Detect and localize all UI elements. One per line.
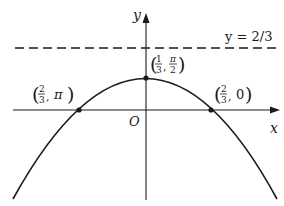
svg-text:): ) bbox=[245, 83, 252, 105]
right-intercept-label: ( 2 3 , 0 ) bbox=[214, 83, 252, 105]
vertex-point bbox=[143, 75, 148, 80]
svg-text:2: 2 bbox=[221, 84, 227, 94]
y-axis-label: y bbox=[132, 7, 142, 23]
left-intercept-label: ( 2 3 , π ) bbox=[32, 83, 74, 105]
svg-text:2: 2 bbox=[39, 84, 45, 94]
svg-text:0: 0 bbox=[236, 87, 244, 102]
parabola-diagram: y x O y = 2/3 ( 1 3 , π 2 ) ( 2 3 , π ) … bbox=[0, 0, 284, 206]
x-axis-label: x bbox=[270, 120, 278, 136]
left-intercept-point bbox=[76, 107, 81, 112]
svg-text:π: π bbox=[53, 87, 63, 102]
origin-label: O bbox=[129, 114, 140, 129]
svg-text:,: , bbox=[46, 90, 50, 103]
svg-text:3: 3 bbox=[221, 95, 227, 105]
svg-text:): ) bbox=[67, 83, 74, 105]
x-axis-arrow-icon bbox=[270, 107, 280, 114]
svg-text:π: π bbox=[169, 54, 177, 64]
svg-text:3: 3 bbox=[156, 65, 162, 75]
vertex-label: ( 1 3 , π 2 ) bbox=[150, 53, 185, 75]
right-intercept-point bbox=[208, 107, 213, 112]
svg-text:1: 1 bbox=[156, 54, 162, 64]
asymptote-label: y = 2/3 bbox=[224, 29, 272, 44]
svg-text:,: , bbox=[163, 60, 167, 73]
svg-text:2: 2 bbox=[170, 65, 176, 75]
svg-text:,: , bbox=[228, 90, 232, 103]
svg-text:3: 3 bbox=[39, 95, 45, 105]
svg-text:): ) bbox=[178, 53, 185, 75]
y-axis-arrow-icon bbox=[143, 13, 150, 23]
